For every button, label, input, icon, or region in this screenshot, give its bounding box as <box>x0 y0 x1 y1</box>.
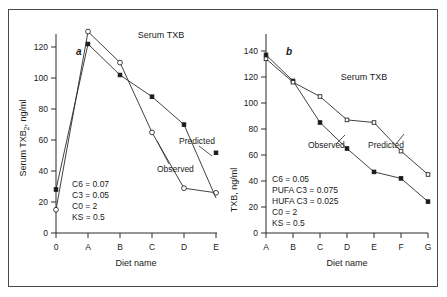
panel-a-annotation-3: KS = 0.5 <box>72 212 105 222</box>
panel-b-ylabel-text: TXB, ng/ml <box>229 168 239 213</box>
panel-a-ylabel-main: Serum TXB <box>18 130 28 176</box>
panel-b-observed-label: Observed <box>308 140 345 150</box>
panel-a-xtick-D: D <box>181 242 187 252</box>
panel-a-ytick-40: 40 <box>39 166 49 176</box>
panel-a-observed-label: Observed <box>157 164 194 174</box>
panel-b-annotation-1: PUFA C3 = 0.075 <box>272 185 338 195</box>
panel-b-id: b <box>286 46 292 57</box>
figure-frame: 0 20 40 60 80 100 120 0 A <box>8 9 438 287</box>
panel-b-ytick-40: 40 <box>249 176 259 186</box>
panel-a-ytick-80: 80 <box>39 104 49 114</box>
panel-b-xtick-C: C <box>317 242 323 252</box>
panel-b-ytick-60: 60 <box>249 150 259 160</box>
panel-a-ytick-60: 60 <box>39 135 49 145</box>
panel-a-observed-leader <box>157 141 169 164</box>
panel-a-annotation-1: C3 = 0.05 <box>72 190 109 200</box>
panel-b-xtick-A: A <box>263 242 269 252</box>
panel-a-x-ticks: 0 A B C D E <box>54 233 220 252</box>
panel-b-annotation-4: KS = 0.5 <box>272 218 305 228</box>
panel-b-xtick-D: D <box>344 242 350 252</box>
panel-b-ylabel: TXB, ng/ml <box>229 168 239 213</box>
panel-b-predicted-label: Predicted <box>368 140 404 150</box>
panel-a-predicted-leader <box>199 146 212 156</box>
panel-a-ytick-100: 100 <box>34 73 48 83</box>
panel-a-xlabel: Diet name <box>115 258 156 268</box>
panel-a-ylabel-tail: , ng/ml <box>18 100 28 127</box>
panel-b-ytick-0: 0 <box>253 228 258 238</box>
panel-b-annotation-2: HUFA C3 = 0.025 <box>272 196 339 206</box>
panel-b-x-ticks: A B C D E F G <box>263 233 431 252</box>
panel-b-annotation-3: C0 = 2 <box>272 207 298 217</box>
panel-a-ytick-0: 0 <box>43 228 48 238</box>
panel-a-annotation-0: C6 = 0.07 <box>72 179 109 189</box>
panel-a-y-ticks: 0 20 40 60 80 100 120 <box>34 42 56 238</box>
panel-b-ytick-20: 20 <box>249 202 259 212</box>
panel-b-xtick-F: F <box>398 242 403 252</box>
svg-text:Serum TXB2, ng/ml: Serum TXB2, ng/ml <box>18 100 30 177</box>
panel-a-title: Serum TXB <box>138 30 184 40</box>
panel-b-ytick-80: 80 <box>249 124 259 134</box>
panel-b-plot: 0 20 40 60 80 100 120 140 <box>224 10 437 288</box>
panel-b-title: Serum TXB <box>341 72 387 82</box>
panel-a-xtick-0: 0 <box>54 242 59 252</box>
panel-a-xtick-A: A <box>85 242 91 252</box>
panel-b-y-ticks: 0 20 40 60 80 100 120 140 <box>244 46 266 238</box>
panel-a-predicted-label: Predicted <box>179 136 215 146</box>
panel-b-annotations: C6 = 0.05 PUFA C3 = 0.075 HUFA C3 = 0.02… <box>272 174 339 228</box>
panel-b-xlabel: Diet name <box>326 258 367 268</box>
panel-a-ylabel: Serum TXB2, ng/ml <box>18 100 30 177</box>
panel-a-plot: 0 20 40 60 80 100 120 0 A <box>9 10 224 288</box>
panel-b-xtick-G: G <box>425 242 432 252</box>
panel-b-xtick-B: B <box>290 242 296 252</box>
panel-b-ytick-100: 100 <box>244 98 258 108</box>
panel-a-annotations: C6 = 0.07 C3 = 0.05 C0 = 2 KS = 0.5 <box>72 179 109 222</box>
panel-a-ytick-120: 120 <box>34 42 48 52</box>
panel-b-ytick-140: 140 <box>244 46 258 56</box>
panel-a-ytick-20: 20 <box>39 197 49 207</box>
panel-a-id: a <box>76 46 82 57</box>
panel-a-xtick-B: B <box>117 242 123 252</box>
panel-b-annotation-0: C6 = 0.05 <box>272 174 309 184</box>
panel-b-xtick-E: E <box>371 242 377 252</box>
panel-b-ytick-120: 120 <box>244 72 258 82</box>
panel-a: 0 20 40 60 80 100 120 0 A <box>9 10 224 288</box>
figure-root: 0 20 40 60 80 100 120 0 A <box>0 0 447 297</box>
panel-a-xtick-C: C <box>149 242 155 252</box>
panel-a-xtick-E: E <box>213 242 219 252</box>
panel-b: 0 20 40 60 80 100 120 140 <box>224 10 437 288</box>
panel-a-annotation-2: C0 = 2 <box>72 201 98 211</box>
panel-a-predicted-line <box>56 44 216 198</box>
